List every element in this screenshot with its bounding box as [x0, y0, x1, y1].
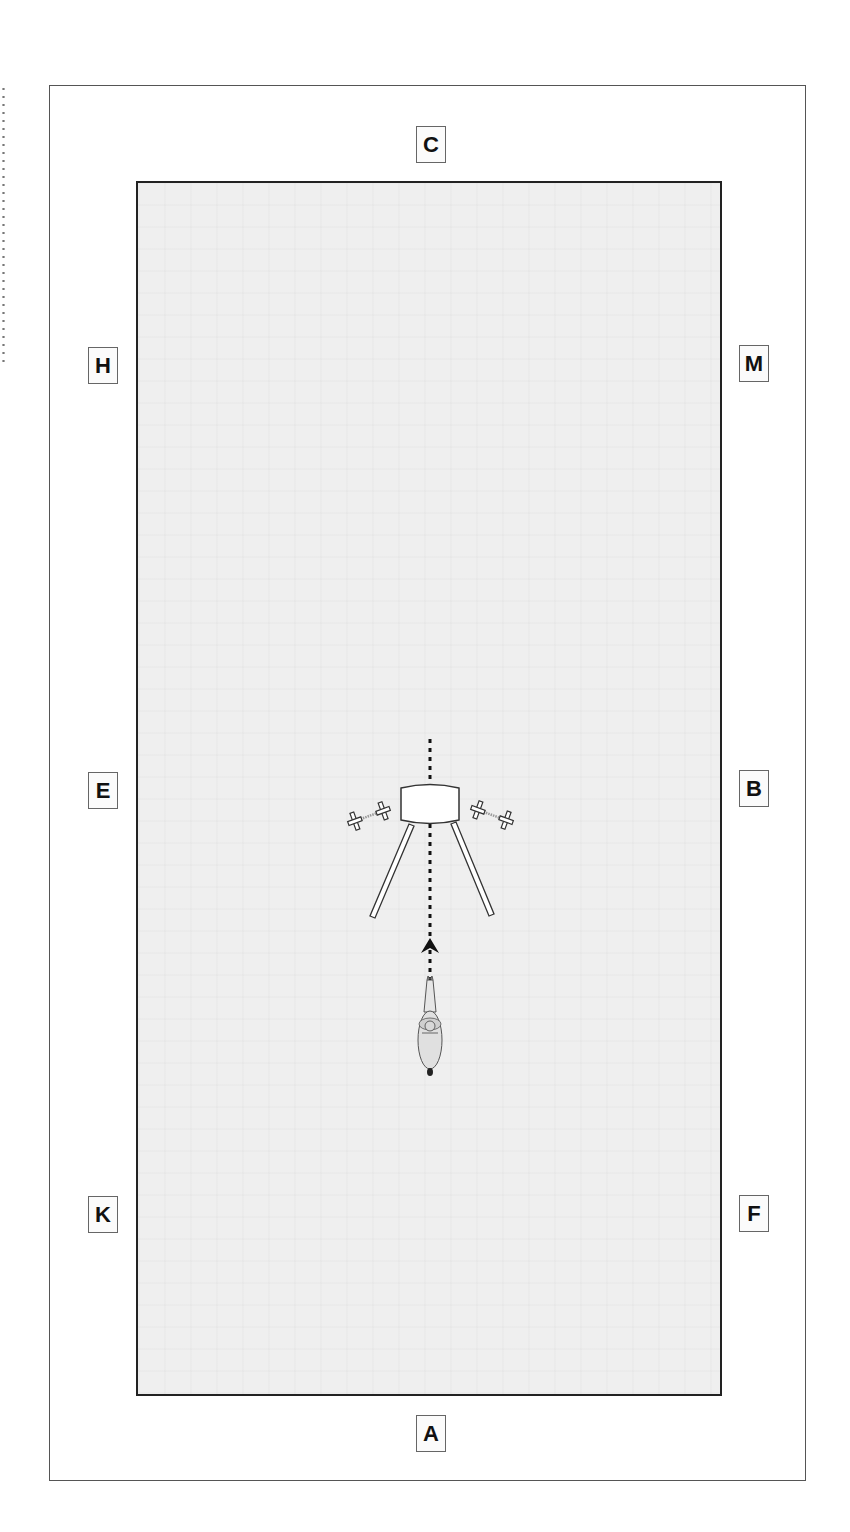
- right-pole: [451, 822, 494, 916]
- right-dumbbell-icon: [468, 799, 516, 831]
- left-pole: [370, 824, 414, 918]
- left-dumbbell-icon: [345, 800, 393, 832]
- barrel-icon: [401, 785, 459, 824]
- horse-rider-icon: [418, 976, 442, 1076]
- exercise-drawing: [0, 0, 850, 1532]
